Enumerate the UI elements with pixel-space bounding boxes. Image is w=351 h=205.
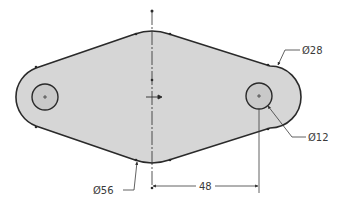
dimension-center-arc[interactable]: Ø56 [93,162,137,196]
centerline-endpoint [151,10,154,13]
dimension-outer-radius[interactable]: Ø28 [278,45,323,65]
midpoint-marker [151,79,154,82]
hole-label: Ø12 [308,132,329,143]
center-arc-label: Ø56 [93,185,114,196]
center-distance-label: 48 [199,181,212,192]
sketch-canvas: Ø28 Ø12 Ø56 48 [0,0,351,205]
outer-radius-label: Ø28 [302,45,323,56]
